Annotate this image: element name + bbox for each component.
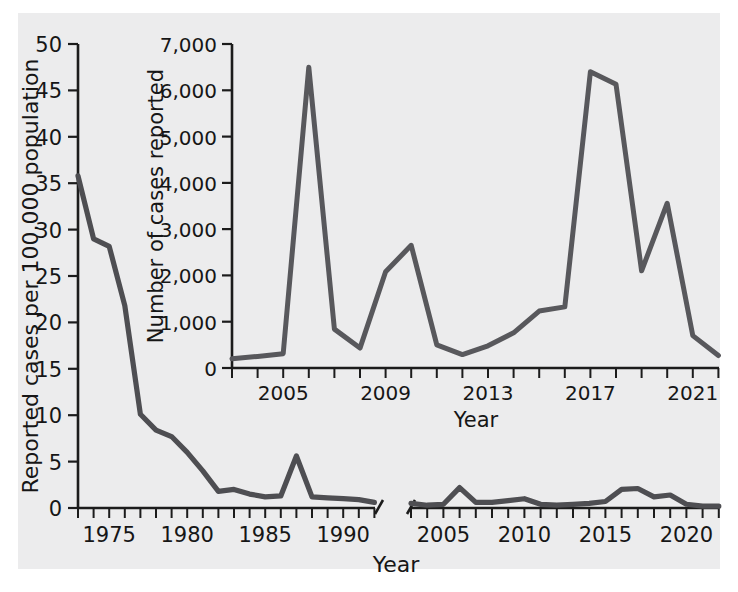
main-x-ticks-left bbox=[78, 508, 374, 518]
inset-y-tick-label-2000: 2,000 bbox=[160, 264, 217, 288]
main-y-tick-label-0: 0 bbox=[49, 497, 62, 521]
inset-x-tick-label-2009: 2009 bbox=[360, 381, 411, 405]
main-x-tick-label-1990: 1990 bbox=[316, 523, 369, 547]
main-x-tick-label-2005: 2005 bbox=[417, 523, 470, 547]
inset-y-tick-label-3000: 3,000 bbox=[160, 218, 217, 242]
inset-y-tick-label-4000: 4,000 bbox=[160, 172, 217, 196]
inset-y-ticks bbox=[222, 44, 232, 368]
inset-x-tick-label-2013: 2013 bbox=[463, 381, 514, 405]
inset-x-tick-label-2005: 2005 bbox=[258, 381, 309, 405]
inset-x-axis-title: Year bbox=[453, 408, 499, 432]
main-x-tick-label-1985: 1985 bbox=[238, 523, 291, 547]
inset-y-tick-label-7000: 7,000 bbox=[160, 33, 217, 57]
main-x-tick-label-2020: 2020 bbox=[660, 523, 713, 547]
main-x-tick-label-2010: 2010 bbox=[498, 523, 551, 547]
inset-y-tick-label-6000: 6,000 bbox=[160, 79, 217, 103]
main-x-axis-title: Year bbox=[372, 552, 421, 577]
chart-canvas: 50 45 40 35 30 25 20 15 10 5 0 Reported … bbox=[0, 0, 738, 592]
figure-container: 50 45 40 35 30 25 20 15 10 5 0 Reported … bbox=[0, 0, 738, 592]
main-series-line-1973-1992 bbox=[78, 176, 374, 503]
inset-y-tick-label-1000: 1,000 bbox=[160, 311, 217, 335]
main-x-tick-label-1980: 1980 bbox=[160, 523, 213, 547]
inset-y-axis-title: Number of cases reported bbox=[144, 69, 168, 343]
main-x-tick-label-1975: 1975 bbox=[82, 523, 135, 547]
inset-x-ticks bbox=[232, 368, 718, 378]
inset-series-line bbox=[232, 67, 718, 359]
inset-y-tick-label-0: 0 bbox=[204, 357, 217, 381]
main-series-line-2003-2022 bbox=[411, 488, 719, 507]
main-y-axis-title: Reported cases per 100,000 population bbox=[18, 58, 43, 493]
main-x-ticks-right bbox=[411, 508, 719, 518]
inset-x-tick-label-2021: 2021 bbox=[667, 381, 718, 405]
inset-chart: 7,000 6,000 5,000 4,000 3,000 2,000 1,00… bbox=[144, 33, 719, 432]
main-y-ticks bbox=[68, 44, 78, 508]
main-y-tick-label-5: 5 bbox=[49, 451, 62, 475]
inset-x-tick-label-2017: 2017 bbox=[565, 381, 616, 405]
inset-y-tick-label-5000: 5,000 bbox=[160, 126, 217, 150]
main-x-tick-label-2015: 2015 bbox=[579, 523, 632, 547]
main-y-tick-label-50: 50 bbox=[35, 33, 62, 57]
main-chart: 50 45 40 35 30 25 20 15 10 5 0 Reported … bbox=[18, 33, 719, 577]
